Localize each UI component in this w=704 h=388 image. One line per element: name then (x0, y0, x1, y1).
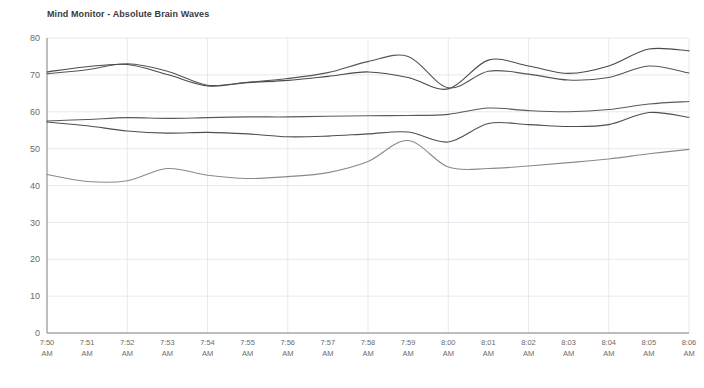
y-axis-tick-labels: 01020304050607080 (30, 33, 40, 338)
x-axis-tick-label-meridiem: AM (202, 349, 213, 358)
x-axis-tick-label-meridiem: AM (603, 349, 614, 358)
x-axis-tick-label-time: 8:02 (521, 338, 536, 347)
x-axis-tick-label-meridiem: AM (162, 349, 173, 358)
x-axis-tick-label-time: 8:00 (441, 338, 456, 347)
grid-lines (47, 38, 689, 333)
x-axis-tick-label-time: 7:56 (280, 338, 295, 347)
x-axis-tick-label-time: 7:52 (120, 338, 135, 347)
x-axis-tick-label-meridiem: AM (643, 349, 654, 358)
y-axis-tick-label: 0 (35, 328, 40, 338)
x-axis-tick-label-time: 8:06 (682, 338, 697, 347)
y-axis-tick-label: 20 (30, 254, 40, 264)
x-axis-tick-label-time: 8:05 (642, 338, 657, 347)
x-axis-tick-label-meridiem: AM (362, 349, 373, 358)
x-axis-tick-label-meridiem: AM (683, 349, 694, 358)
x-axis-tick-label-time: 7:51 (80, 338, 95, 347)
x-axis-tick-label-time: 7:59 (401, 338, 416, 347)
chart-container: Mind Monitor - Absolute Brain Waves 0102… (0, 0, 704, 388)
x-axis-tick-label-meridiem: AM (82, 349, 93, 358)
x-axis-tick-label-meridiem: AM (322, 349, 333, 358)
y-axis-tick-label: 40 (30, 181, 40, 191)
x-axis-tick-label-time: 8:04 (601, 338, 616, 347)
x-axis-tick-label-meridiem: AM (443, 349, 454, 358)
y-axis-tick-label: 10 (30, 291, 40, 301)
x-axis-tick-label-meridiem: AM (41, 349, 52, 358)
x-axis-tick-label-meridiem: AM (403, 349, 414, 358)
y-axis-tick-label: 60 (30, 107, 40, 117)
x-axis-tick-labels: 7:50AM7:51AM7:52AM7:53AM7:54AM7:55AM7:56… (40, 338, 697, 358)
x-axis-tick-label-time: 7:57 (321, 338, 336, 347)
x-axis-tick-label-time: 7:50 (40, 338, 55, 347)
x-axis-tick-label-time: 8:03 (561, 338, 576, 347)
x-axis-tick-label-meridiem: AM (563, 349, 574, 358)
y-axis-tick-label: 30 (30, 218, 40, 228)
line-chart-plot: 01020304050607080 7:50AM7:51AM7:52AM7:53… (0, 0, 704, 388)
y-axis-tick-label: 50 (30, 144, 40, 154)
x-axis-tick-label-time: 7:53 (160, 338, 175, 347)
x-axis-tick-label-meridiem: AM (282, 349, 293, 358)
x-axis-tick-label-time: 7:54 (200, 338, 215, 347)
x-axis-tick-label-time: 7:58 (361, 338, 376, 347)
x-axis-tick-label-meridiem: AM (122, 349, 133, 358)
x-axis-tick-label-meridiem: AM (523, 349, 534, 358)
x-axis-tick-label-time: 8:01 (481, 338, 496, 347)
y-axis-tick-label: 70 (30, 70, 40, 80)
x-axis-tick-label-meridiem: AM (242, 349, 253, 358)
x-axis-tick-label-time: 7:55 (240, 338, 255, 347)
y-axis-tick-label: 80 (30, 33, 40, 43)
x-axis-tick-label-meridiem: AM (483, 349, 494, 358)
